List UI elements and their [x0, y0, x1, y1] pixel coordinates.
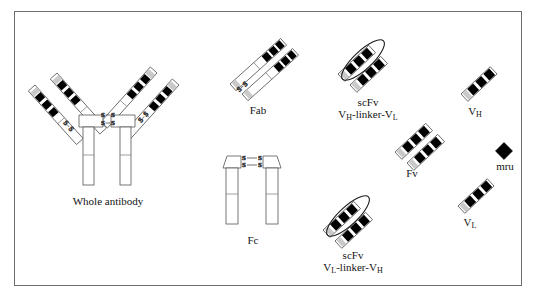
figure-frame: S S S S S S S S — [14, 11, 522, 286]
fc-disulfide-bonds: S S S S — [242, 154, 262, 169]
vl-caption: VL — [445, 216, 495, 228]
svg-text:S: S — [242, 161, 246, 169]
fv-structure — [387, 112, 459, 174]
svg-text:S: S — [111, 111, 115, 119]
scfv-vl-linker-vh-structure — [313, 182, 393, 254]
vh-domain-structure — [455, 62, 505, 106]
svg-text:S: S — [101, 111, 105, 119]
whole-antibody-caption: Whole antibody — [43, 195, 173, 207]
svg-text:S: S — [111, 119, 115, 127]
scfv-vl-linker-vh-caption: scFv VL-linker-VH — [303, 249, 403, 273]
fc-stem-left — [226, 168, 238, 224]
antibody-stem-left — [83, 127, 94, 185]
vl-domain-bar — [458, 179, 494, 214]
vl-domain-structure — [452, 174, 502, 218]
mru-diamond-icon — [496, 143, 513, 160]
whole-antibody-structure: S S S S S S S S — [17, 47, 197, 197]
svg-text:S: S — [258, 161, 262, 169]
fc-stem-right — [266, 168, 278, 224]
fc-structure: S S S S — [213, 146, 293, 232]
scfv-vh-linker-vl-structure — [328, 26, 408, 98]
fv-caption: Fv — [387, 167, 437, 179]
fc-caption: Fc — [223, 234, 283, 246]
antibody-stem-right — [120, 127, 131, 185]
mru-caption: mru — [483, 160, 527, 172]
svg-text:S: S — [101, 119, 105, 127]
antibody-fragment-figure: S S S S S S S S — [0, 0, 541, 303]
fab-caption: Fab — [218, 104, 298, 116]
vh-domain-bar — [461, 67, 497, 102]
fab-structure: S S — [218, 22, 308, 107]
vh-caption: VH — [450, 105, 500, 117]
